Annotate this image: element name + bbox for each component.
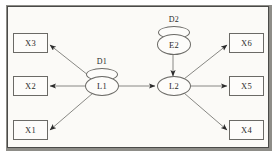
node-l1-label: L1 [97, 81, 107, 91]
node-e2[interactable]: E2 [157, 34, 191, 55]
node-x4[interactable]: X4 [229, 120, 264, 140]
edge-l2-x4 [184, 93, 227, 130]
node-e2-label: E2 [169, 40, 179, 50]
node-l2-label: L2 [169, 81, 179, 91]
node-x1[interactable]: X1 [13, 120, 48, 140]
diagram-frame: X3 X2 X1 X6 X5 X4 D1 L1 D2 E2 L2 [0, 0, 278, 158]
disturbance-d1-label: D1 [86, 57, 118, 66]
node-x1-label: X1 [25, 125, 36, 135]
node-l2[interactable]: L2 [157, 76, 191, 96]
disturbance-d2-label: D2 [158, 15, 190, 24]
node-x6-label: X6 [241, 38, 252, 48]
node-x3[interactable]: X3 [13, 33, 48, 53]
node-x2-label: X2 [25, 81, 36, 91]
node-x5-label: X5 [241, 81, 252, 91]
node-x3-label: X3 [25, 38, 36, 48]
edge-l2-x6 [184, 45, 227, 79]
node-x2[interactable]: X2 [13, 76, 48, 96]
node-x4-label: X4 [241, 125, 252, 135]
edge-l1-x1 [50, 93, 93, 130]
node-x5[interactable]: X5 [229, 76, 264, 96]
node-l1[interactable]: L1 [85, 76, 119, 96]
node-x6[interactable]: X6 [229, 33, 264, 53]
